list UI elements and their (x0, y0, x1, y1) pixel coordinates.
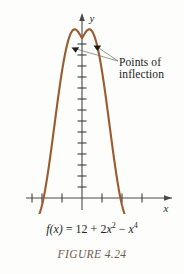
x-axis-arrowhead (164, 195, 172, 201)
equation-quadratic-exponent: 2 (112, 221, 116, 230)
graph-plot-area: x (0, 0, 184, 214)
equation-minus-operator: − (119, 222, 126, 236)
x-axis-label: x (163, 202, 169, 214)
equation-equals: = (66, 222, 73, 236)
equation-plus-operator: + (91, 222, 98, 236)
inflection-annotation-line-2: inflection (119, 68, 164, 81)
y-axis-label: y (89, 12, 95, 24)
inflection-annotation-line-1: Points of (119, 56, 161, 69)
function-equation: f(x) = 12 + 2x2 − x4 (0, 222, 184, 237)
figure-container: x (0, 0, 184, 274)
equation-constant-term: 12 (76, 222, 88, 236)
equation-fn-arg: (x) (50, 222, 63, 236)
equation-quartic-exponent: 4 (134, 221, 138, 230)
graph-svg: x (0, 0, 184, 214)
arrowhead-left-inflection (72, 47, 80, 53)
y-axis-group: y (78, 12, 95, 210)
y-axis-arrowhead (79, 13, 85, 21)
figure-caption: FIGURE 4.24 (0, 248, 184, 260)
x-axis-group: x (26, 194, 172, 215)
arrowhead-right-inflection (94, 45, 102, 51)
